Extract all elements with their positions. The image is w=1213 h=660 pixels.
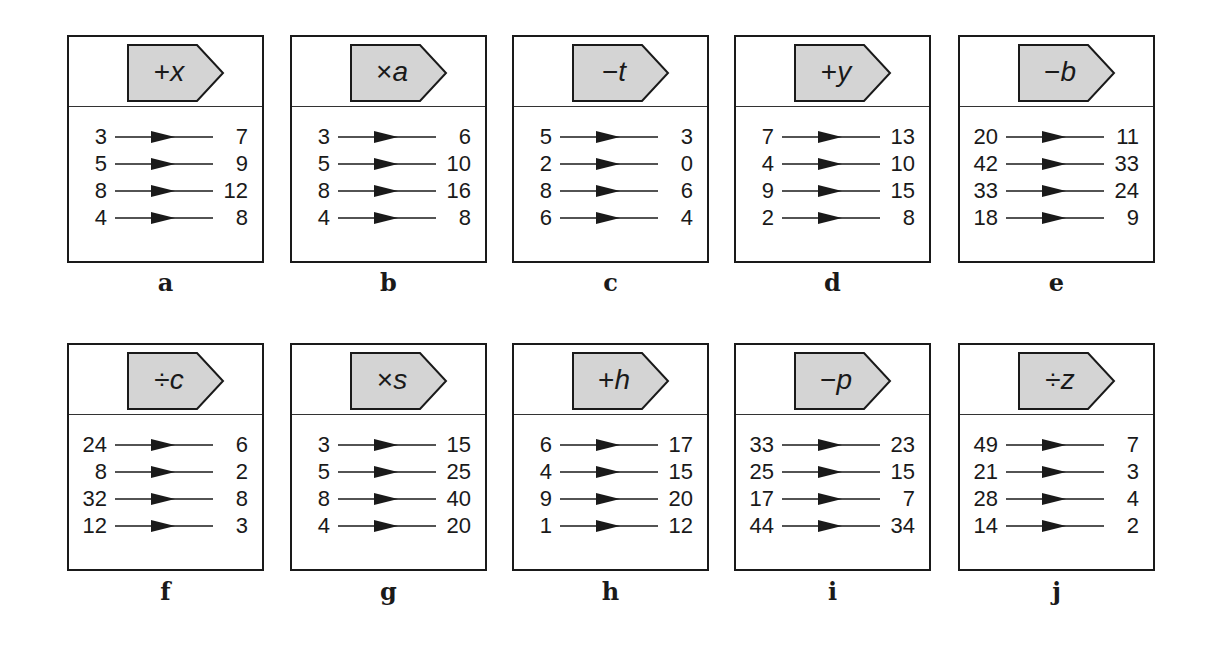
output-value: 0: [659, 150, 693, 177]
mapping-row: 189: [960, 204, 1153, 231]
arrow-right-icon: [115, 519, 215, 533]
input-value: 4: [73, 204, 107, 231]
mapping-row: 64: [514, 204, 707, 231]
output-value: 20: [437, 512, 471, 539]
output-value: 15: [881, 177, 915, 204]
input-value: 9: [740, 177, 774, 204]
mapping-row: 920: [514, 485, 707, 512]
input-value: 4: [740, 150, 774, 177]
arrow-right-icon: [560, 519, 660, 533]
output-value: 24: [1105, 177, 1139, 204]
input-value: 8: [296, 485, 330, 512]
arrow-right-icon: [560, 157, 660, 171]
card-header: ×a: [292, 37, 485, 107]
rule-operator: −: [820, 364, 836, 395]
mapping-row: 315: [292, 431, 485, 458]
mapping-row: 36: [292, 123, 485, 150]
rule-text: −t: [572, 57, 656, 87]
mapping-row: 2515: [736, 458, 929, 485]
output-value: 12: [214, 177, 248, 204]
arrow-right-icon: [782, 492, 882, 506]
arrow-right-icon: [560, 465, 660, 479]
mapping-list: 24682328123: [69, 431, 262, 539]
input-value: 6: [518, 431, 552, 458]
output-value: 6: [659, 177, 693, 204]
arrow-right-icon: [115, 492, 215, 506]
arrow-right-icon: [782, 184, 882, 198]
input-value: 14: [964, 512, 998, 539]
rule-operator: −: [602, 56, 618, 87]
arrow-right-icon: [338, 130, 438, 144]
input-value: 8: [73, 177, 107, 204]
mapping-list: 201142333324189: [960, 123, 1153, 231]
rule-variable: y: [837, 56, 851, 87]
card-label-f: f: [67, 577, 264, 606]
input-value: 1: [518, 512, 552, 539]
mapping-row: 525: [292, 458, 485, 485]
input-value: 5: [518, 123, 552, 150]
card-label-h: h: [512, 577, 709, 606]
input-value: 9: [518, 485, 552, 512]
function-card-g: ×s 315525840420: [290, 343, 487, 571]
mapping-row: 840: [292, 485, 485, 512]
rule-tag: ×s: [350, 352, 448, 408]
input-value: 7: [740, 123, 774, 150]
arrow-right-icon: [338, 211, 438, 225]
input-value: 49: [964, 431, 998, 458]
input-value: 25: [740, 458, 774, 485]
card-label-e: e: [958, 268, 1155, 297]
arrow-right-icon: [1006, 438, 1106, 452]
output-value: 9: [214, 150, 248, 177]
input-value: 5: [296, 150, 330, 177]
card-label-a: a: [67, 268, 264, 297]
card-header: ÷c: [69, 345, 262, 415]
rule-tag: +y: [794, 44, 892, 100]
output-value: 10: [881, 150, 915, 177]
card-label-c: c: [512, 268, 709, 297]
rule-text: ×s: [350, 365, 434, 395]
rule-tag: −p: [794, 352, 892, 408]
card-header: +x: [69, 37, 262, 107]
arrow-right-icon: [115, 130, 215, 144]
input-value: 8: [73, 458, 107, 485]
input-value: 2: [518, 150, 552, 177]
output-value: 17: [659, 431, 693, 458]
output-value: 2: [1105, 512, 1139, 539]
rule-operator: −: [1044, 56, 1060, 87]
output-value: 4: [659, 204, 693, 231]
output-value: 7: [881, 485, 915, 512]
input-value: 8: [296, 177, 330, 204]
mapping-list: 375981248: [69, 123, 262, 231]
mapping-row: 86: [514, 177, 707, 204]
mapping-list: 617415920112: [514, 431, 707, 539]
rule-tag: ÷z: [1018, 352, 1116, 408]
rule-variable: h: [614, 364, 630, 395]
rule-variable: b: [1060, 56, 1076, 87]
rule-text: ÷z: [1018, 365, 1102, 395]
output-value: 9: [1105, 204, 1139, 231]
rule-text: +x: [127, 57, 211, 87]
mapping-row: 4233: [960, 150, 1153, 177]
output-value: 8: [437, 204, 471, 231]
arrow-right-icon: [338, 465, 438, 479]
rule-tag: −t: [572, 44, 670, 100]
input-value: 24: [73, 431, 107, 458]
function-card-d: +y 71341091528: [734, 35, 931, 263]
rule-text: −p: [794, 365, 878, 395]
rule-operator: +: [154, 56, 170, 87]
mapping-row: 410: [736, 150, 929, 177]
input-value: 6: [518, 204, 552, 231]
arrow-right-icon: [1006, 465, 1106, 479]
mapping-row: 713: [736, 123, 929, 150]
input-value: 8: [518, 177, 552, 204]
arrow-right-icon: [1006, 157, 1106, 171]
output-value: 15: [659, 458, 693, 485]
output-value: 13: [881, 123, 915, 150]
output-value: 25: [437, 458, 471, 485]
mapping-row: 177: [736, 485, 929, 512]
card-label-i: i: [734, 577, 931, 606]
input-value: 28: [964, 485, 998, 512]
mapping-row: 48: [69, 204, 262, 231]
arrow-right-icon: [1006, 519, 1106, 533]
input-value: 2: [740, 204, 774, 231]
